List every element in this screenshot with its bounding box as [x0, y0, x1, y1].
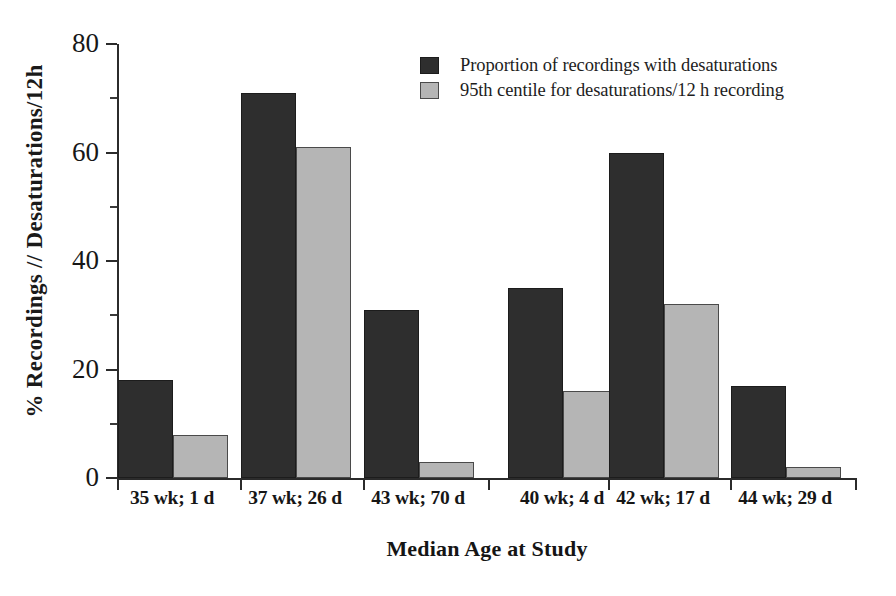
legend-swatch-light-gray-square-icon [420, 82, 439, 99]
y-axis-minor-tick [110, 423, 117, 425]
legend-swatch-dark-square-icon [420, 57, 439, 74]
x-axis-title: Median Age at Study [117, 536, 857, 562]
legend-item: 95th centile for desaturations/12 h reco… [420, 79, 860, 101]
bar [731, 386, 786, 478]
x-axis-category-label: 43 wk; 70 d [348, 487, 488, 509]
y-axis-tick-label: 60 [72, 139, 99, 166]
bars-container [118, 44, 856, 478]
y-axis-major-tick [106, 152, 117, 154]
plot-area: 020406080 [117, 44, 855, 478]
legend-item-label: Proportion of recordings with desaturati… [460, 55, 777, 76]
legend-item-label: 95th centile for desaturations/12 h reco… [460, 80, 784, 101]
y-axis-minor-tick [110, 314, 117, 316]
x-axis-line [117, 478, 857, 480]
y-axis-tick-label: 0 [86, 464, 100, 491]
bar [508, 288, 563, 478]
x-axis-category-label: 35 wk; 1 d [102, 487, 242, 509]
y-axis-major-tick [106, 43, 117, 45]
bar [786, 467, 841, 478]
bar [664, 304, 719, 478]
y-axis-minor-tick [110, 97, 117, 99]
y-axis-tick-label: 80 [72, 30, 99, 57]
x-axis-category-label: 42 wk; 17 d [593, 487, 733, 509]
bar [609, 153, 664, 479]
bar [364, 310, 419, 478]
bar-chart-figure: % Recordings // Desaturations/12h 020406… [0, 0, 896, 596]
x-axis-category-labels: 35 wk; 1 d37 wk; 26 d43 wk; 70 d40 wk; 4… [117, 487, 862, 517]
y-axis-tick-label: 40 [72, 247, 99, 274]
bar [296, 147, 351, 478]
y-axis-major-tick [106, 477, 117, 479]
x-axis-category-label: 44 wk; 29 d [715, 487, 855, 509]
x-axis-category-label: 37 wk; 26 d [225, 487, 365, 509]
bar [419, 462, 474, 478]
bar [118, 380, 173, 478]
y-axis-tick-labels: 020406080 [21, 44, 99, 478]
bar [241, 93, 296, 478]
y-axis-tick-label: 20 [72, 356, 99, 383]
y-axis-minor-tick [110, 206, 117, 208]
bar [173, 435, 228, 478]
legend-item: Proportion of recordings with desaturati… [420, 54, 860, 76]
chart-legend: Proportion of recordings with desaturati… [420, 54, 860, 104]
y-axis-major-tick [106, 369, 117, 371]
y-axis-major-tick [106, 260, 117, 262]
